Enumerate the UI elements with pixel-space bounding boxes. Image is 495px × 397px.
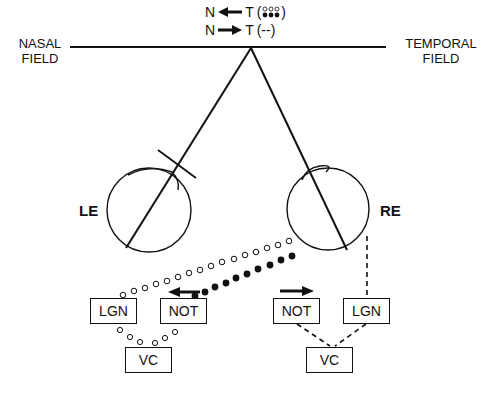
right-lgn-box: LGN (343, 298, 390, 324)
left-eye-label: LE (79, 203, 98, 218)
left-arrow-icon (218, 7, 242, 17)
filled-dot-pathway (192, 253, 296, 300)
right-not-box: NOT (273, 298, 320, 324)
right-arrow-icon (218, 25, 242, 35)
nasal-label-line1: NASAL (10, 36, 70, 51)
legend-n-label: N (205, 3, 215, 21)
legend-t-label: T (245, 21, 254, 39)
temporal-label-line1: TEMPORAL (396, 36, 486, 51)
nasal-label-line2: FIELD (10, 51, 70, 66)
dots-symbol-icon: ( ) (257, 3, 286, 21)
legend-t-label: T (245, 3, 254, 21)
legend-row-nasal-to-temporal-right: N T (--) (205, 21, 315, 39)
ray-to-left-eye (126, 48, 251, 248)
direction-legend: N T ( ) N T (--) (205, 3, 315, 39)
legend-n-label: N (205, 21, 215, 39)
dash-symbol: (--) (257, 21, 276, 39)
occluder-mark (158, 150, 196, 178)
right-vc-box: VC (306, 347, 353, 373)
legend-row-nasal-to-temporal-left: N T ( ) (205, 3, 315, 21)
right-not-arrow-icon (280, 286, 314, 296)
left-vc-box: VC (125, 347, 172, 373)
temporal-field-label: TEMPORAL FIELD (396, 36, 486, 66)
ray-to-right-eye (251, 48, 347, 250)
temporal-label-line2: FIELD (396, 51, 486, 66)
right-eye-label: RE (380, 203, 401, 218)
nasal-field-label: NASAL FIELD (10, 36, 70, 66)
left-lgn-box: LGN (90, 298, 137, 324)
left-not-box: NOT (160, 298, 207, 324)
